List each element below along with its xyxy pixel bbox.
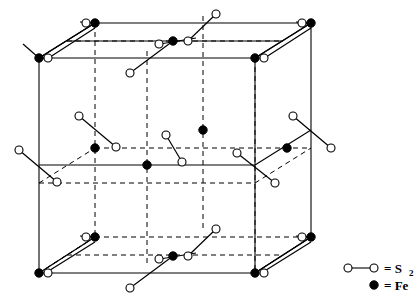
s-atom — [260, 54, 268, 62]
fe-atom — [307, 19, 315, 27]
s-atom — [233, 149, 241, 157]
legend-s2-label: = S — [384, 261, 402, 276]
s-atom — [184, 37, 192, 45]
s-atom — [126, 284, 134, 292]
fe-atom — [251, 269, 259, 277]
legend-s2-marker-left — [344, 264, 352, 272]
fe-atom — [143, 161, 151, 169]
s-atom — [212, 225, 220, 233]
s-atom — [53, 178, 61, 186]
legend-fe-label: = Fe — [384, 278, 409, 293]
fe-atom — [251, 54, 259, 62]
fe-atom — [35, 269, 43, 277]
s-atom — [298, 233, 306, 241]
fe-atom — [91, 19, 99, 27]
legend-fe-marker — [370, 281, 378, 289]
s-atom — [271, 179, 279, 187]
s-atom — [212, 10, 220, 18]
s-atom — [112, 143, 120, 151]
pyrite-unit-cell-figure: = S 2 = Fe — [0, 0, 417, 302]
fe-atom — [169, 252, 177, 260]
s-atom — [155, 255, 163, 263]
s-atom — [44, 269, 52, 277]
fe-atom — [169, 37, 177, 45]
fe-atom — [283, 144, 291, 152]
s-atom — [75, 112, 83, 120]
s-atom — [15, 146, 23, 154]
fe-atom — [91, 233, 99, 241]
s-atom — [126, 69, 134, 77]
s-atom — [82, 19, 90, 27]
s-atom — [260, 269, 268, 277]
s-atom — [184, 252, 192, 260]
fe-atom — [307, 233, 315, 241]
s-atom — [155, 40, 163, 48]
s-atom — [327, 144, 335, 152]
fe-atom — [199, 126, 207, 134]
s-atom — [298, 19, 306, 27]
s-atom — [44, 54, 52, 62]
s-atom — [178, 158, 186, 166]
s-atom — [82, 233, 90, 241]
legend-s2-subscript: 2 — [409, 268, 414, 278]
fe-atom — [91, 144, 99, 152]
fe-atom — [35, 54, 43, 62]
legend-s2-marker-right — [370, 264, 378, 272]
s-atom — [289, 112, 297, 120]
figure-background — [0, 0, 417, 302]
s-atom — [162, 131, 170, 139]
